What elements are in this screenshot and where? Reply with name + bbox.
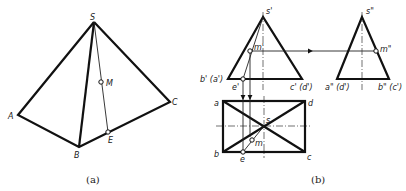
front-triangle xyxy=(228,17,302,79)
point-m-side xyxy=(374,49,378,53)
figure-b-projections: s' b' (a') c' (d') m' e' s" a" (d') b" (… xyxy=(200,7,402,185)
edge-sb xyxy=(79,22,94,147)
label-b-top: b xyxy=(214,150,219,159)
label-a: A xyxy=(7,112,13,121)
label-bc-side: b" (c') xyxy=(378,83,402,92)
label-c: C xyxy=(172,98,178,107)
label-m: M xyxy=(106,79,113,88)
label-a-top: a xyxy=(214,99,219,108)
top-view: a d b c s m e xyxy=(214,96,314,164)
pyramid-projection-diagram: S A B C M E (a) s' b' (a') c' (d') m' e' xyxy=(0,0,406,191)
line-se xyxy=(94,22,108,132)
point-e-front xyxy=(241,77,245,81)
label-ad-side: a" (d') xyxy=(325,83,350,92)
figure-a-pyramid: S A B C M E (a) xyxy=(7,13,178,185)
label-ba-front: b' (a') xyxy=(200,75,223,84)
label-m-front: m' xyxy=(254,43,264,52)
label-d-top: d xyxy=(308,99,314,108)
caption-a: (a) xyxy=(86,174,100,185)
label-e: E xyxy=(108,136,114,145)
label-cd-front: c' (d') xyxy=(290,83,313,92)
label-s-top: s xyxy=(266,116,270,125)
label-e-front: e' xyxy=(232,83,239,92)
point-e xyxy=(106,130,110,134)
side-view: s" a" (d') b" (c') m" xyxy=(325,7,402,92)
point-m-top xyxy=(250,138,254,142)
label-e-top: e xyxy=(240,155,245,164)
point-m xyxy=(99,80,103,84)
label-s-side: s" xyxy=(366,7,374,16)
label-c-top: c xyxy=(307,153,312,162)
pyramid-outline xyxy=(18,22,170,147)
caption-b: (b) xyxy=(311,174,325,185)
point-e-top xyxy=(241,150,245,154)
label-s-front: s' xyxy=(266,7,272,16)
label-m-side: m" xyxy=(380,45,391,54)
label-b: B xyxy=(74,151,80,160)
point-m-front xyxy=(248,49,252,53)
label-s: S xyxy=(90,13,95,22)
label-m-top: m xyxy=(255,139,263,148)
